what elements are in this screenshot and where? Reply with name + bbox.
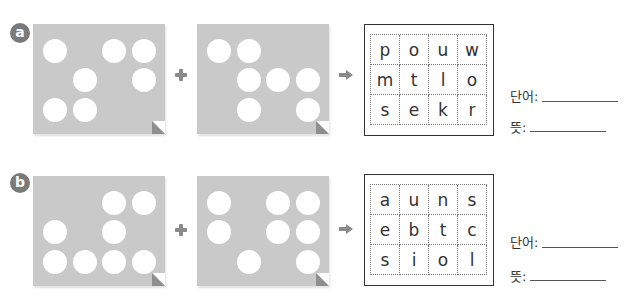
punch-hole	[102, 191, 126, 215]
letter-cell: a	[371, 185, 400, 215]
plus-icon	[175, 224, 187, 236]
punch-hole	[237, 39, 261, 63]
letter-cell: k	[429, 95, 458, 125]
letter-cell: s	[371, 95, 400, 125]
letter-cell: p	[371, 35, 400, 65]
letter-cell: o	[458, 65, 487, 95]
meaning-answer-line[interactable]	[530, 280, 606, 281]
page-fold-shade	[316, 121, 329, 134]
page-fold-shade	[152, 121, 165, 134]
letter-grid-box: aunsebtcsiol	[364, 174, 494, 286]
letter-cell: n	[429, 185, 458, 215]
punch-hole	[207, 220, 231, 244]
word-answer-line[interactable]	[542, 247, 618, 248]
punch-hole	[102, 220, 126, 244]
word-label: 단어:	[510, 232, 538, 251]
page-fold-shade	[152, 273, 165, 286]
punch-hole	[266, 220, 290, 244]
exercise-badge: a	[10, 23, 30, 43]
word-label: 단어:	[510, 86, 538, 105]
hole-card-2	[197, 176, 329, 286]
punch-hole	[296, 220, 320, 244]
punch-hole	[73, 98, 97, 122]
letter-cell: u	[400, 185, 429, 215]
punch-hole	[266, 68, 290, 92]
meaning-answer-line[interactable]	[530, 131, 606, 132]
letter-cell: o	[429, 245, 458, 275]
exercise-badge: b	[10, 173, 30, 193]
punch-hole	[207, 39, 231, 63]
letter-grid: pouwmtlosekr	[370, 34, 487, 125]
letter-grid: aunsebtcsiol	[370, 184, 487, 275]
letter-cell: u	[429, 35, 458, 65]
punch-hole	[102, 250, 126, 274]
meaning-label: 뜻:	[510, 266, 526, 285]
punch-hole	[296, 68, 320, 92]
letter-cell: m	[371, 65, 400, 95]
plus-icon	[175, 69, 187, 81]
punch-hole	[237, 98, 261, 122]
letter-cell: e	[371, 215, 400, 245]
punch-hole	[207, 191, 231, 215]
punch-hole	[132, 68, 156, 92]
letter-cell: e	[400, 95, 429, 125]
punch-hole	[132, 250, 156, 274]
punch-hole	[296, 98, 320, 122]
letter-cell: o	[400, 35, 429, 65]
punch-hole	[132, 191, 156, 215]
punch-hole	[296, 250, 320, 274]
letter-grid-box: pouwmtlosekr	[364, 24, 494, 136]
punch-hole	[237, 250, 261, 274]
letter-cell: i	[400, 245, 429, 275]
punch-hole	[237, 68, 261, 92]
arrow-right-icon	[339, 70, 353, 80]
punch-hole	[296, 191, 320, 215]
hole-card-2	[197, 24, 329, 134]
letter-cell: l	[458, 245, 487, 275]
letter-cell: l	[429, 65, 458, 95]
letter-cell: s	[458, 185, 487, 215]
punch-hole	[43, 98, 67, 122]
letter-cell: r	[458, 95, 487, 125]
letter-cell: t	[400, 65, 429, 95]
hole-card-1	[33, 24, 165, 134]
hole-card-1	[33, 176, 165, 286]
punch-hole	[102, 39, 126, 63]
word-answer-line[interactable]	[542, 101, 618, 102]
punch-hole	[266, 191, 290, 215]
punch-hole	[132, 39, 156, 63]
letter-cell: c	[458, 215, 487, 245]
letter-cell: t	[429, 215, 458, 245]
page-fold-shade	[316, 273, 329, 286]
punch-hole	[73, 68, 97, 92]
punch-hole	[43, 39, 67, 63]
punch-hole	[43, 250, 67, 274]
letter-cell: s	[371, 245, 400, 275]
arrow-right-icon	[339, 224, 353, 234]
punch-hole	[43, 220, 67, 244]
punch-hole	[73, 250, 97, 274]
meaning-label: 뜻:	[510, 117, 526, 136]
letter-cell: b	[400, 215, 429, 245]
letter-cell: w	[458, 35, 487, 65]
